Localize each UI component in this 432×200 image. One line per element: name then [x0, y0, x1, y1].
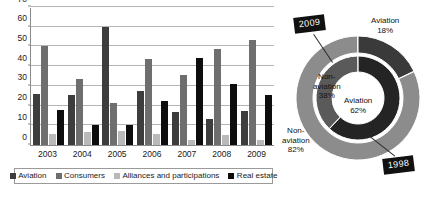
bar-real-estate-2009: [265, 95, 272, 145]
bar-alliances-and-participations-2009: [257, 140, 264, 145]
x-axis-label-2008: 2008: [204, 150, 239, 159]
legend-label: Aviation: [18, 172, 46, 180]
bar-consumers-2008: [214, 49, 221, 145]
y-axis-tick-mark: [28, 6, 31, 7]
y-axis-tick-label: 40: [18, 53, 27, 62]
x-axis-labels: 2003200420052006200720082009: [30, 150, 274, 159]
bar-alliances-and-participations-2004: [84, 132, 91, 145]
legend-item-consumers[interactable]: Consumers: [56, 172, 105, 180]
outer-aviation-label: Aviation 18%: [371, 16, 399, 35]
bar-groups: [31, 8, 274, 145]
legend-label: Consumers: [64, 172, 105, 180]
bar-chart-plot-area: 010203040506070: [30, 8, 274, 146]
bar-chart-panel: 010203040506070 200320042005200620072008…: [0, 0, 288, 200]
legend-swatch-icon: [10, 173, 16, 179]
y-axis-tick-label: 10: [18, 113, 27, 122]
bar-aviation-2006: [137, 91, 144, 145]
bar-real-estate-2006: [161, 101, 168, 145]
bar-group-2003: [31, 8, 66, 145]
legend-swatch-icon: [114, 173, 120, 179]
bar-alliances-and-participations-2007: [188, 140, 195, 145]
bar-real-estate-2003: [57, 110, 64, 145]
y-axis-tick-label: 30: [18, 73, 27, 82]
legend-label: Alliances and participations: [122, 172, 219, 180]
bar-consumers-2004: [76, 79, 83, 145]
bar-aviation-2003: [33, 94, 40, 145]
bar-group-2009: [239, 8, 274, 145]
x-axis-label-2006: 2006: [135, 150, 170, 159]
bar-consumers-2005: [110, 103, 117, 145]
bar-real-estate-2007: [196, 58, 203, 145]
bar-group-2006: [135, 8, 170, 145]
bar-aviation-2004: [68, 95, 75, 145]
bar-alliances-and-participations-2005: [118, 131, 125, 145]
bar-group-2004: [66, 8, 101, 145]
bar-alliances-and-participations-2006: [153, 134, 160, 145]
bar-group-2005: [100, 8, 135, 145]
x-axis-label-2003: 2003: [30, 150, 65, 159]
legend-swatch-icon: [228, 173, 234, 179]
gridline: [31, 6, 274, 7]
donut-chart-panel: 2009 1998 Aviation 18% Non- aviation 82%…: [286, 0, 432, 200]
y-axis-tick-label: 60: [18, 14, 27, 23]
bar-chart-legend: AviationConsumersAlliances and participa…: [14, 168, 273, 184]
bar-aviation-2008: [206, 119, 213, 145]
bar-real-estate-2008: [230, 84, 237, 145]
bar-aviation-2009: [241, 111, 248, 146]
inner-nonaviation-label: Non- aviation 38%: [313, 72, 341, 101]
y-axis-tick-label: 70: [18, 0, 27, 3]
legend-item-real-estate[interactable]: Real estate: [228, 172, 277, 180]
bar-alliances-and-participations-2008: [222, 135, 229, 145]
bar-aviation-2005: [102, 27, 109, 145]
bar-real-estate-2005: [126, 125, 133, 145]
bar-group-2007: [170, 8, 205, 145]
bar-consumers-2003: [41, 46, 48, 145]
x-axis-label-2004: 2004: [65, 150, 100, 159]
outer-nonaviation-label: Non- aviation 82%: [282, 126, 310, 155]
bar-consumers-2009: [249, 40, 256, 145]
y-axis-tick-label: 20: [18, 93, 27, 102]
x-axis-label-2009: 2009: [239, 150, 274, 159]
x-axis-label-2005: 2005: [100, 150, 135, 159]
figure-root: 010203040506070 200320042005200620072008…: [0, 0, 432, 200]
legend-item-alliances-and-participations[interactable]: Alliances and participations: [114, 172, 219, 180]
inner-aviation-label: Aviation 62%: [344, 96, 372, 115]
y-axis-tick-label: 50: [18, 34, 27, 43]
bar-alliances-and-participations-2003: [49, 134, 56, 145]
legend-label: Real estate: [237, 172, 277, 180]
bar-aviation-2007: [172, 112, 179, 145]
x-axis-label-2007: 2007: [169, 150, 204, 159]
bar-consumers-2006: [145, 59, 152, 145]
legend-swatch-icon: [56, 173, 62, 179]
bar-consumers-2007: [180, 75, 187, 145]
bar-real-estate-2004: [92, 125, 99, 145]
bar-group-2008: [205, 8, 240, 145]
y-axis-tick-label: 0: [22, 132, 27, 141]
legend-item-aviation[interactable]: Aviation: [10, 172, 47, 180]
